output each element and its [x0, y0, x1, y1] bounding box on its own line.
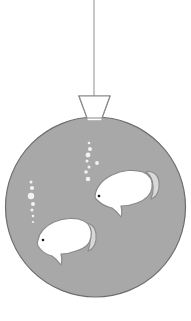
bubble — [28, 193, 34, 199]
bubble — [30, 186, 34, 190]
upper-fish-eye — [98, 195, 101, 198]
bubble — [86, 160, 89, 163]
lower-fish-eye — [42, 239, 45, 242]
bubble — [84, 170, 88, 174]
bubble — [32, 215, 35, 218]
bubble — [32, 221, 34, 223]
bubble — [30, 181, 33, 184]
bubble — [86, 153, 91, 158]
fishbowl-illustration — [0, 0, 191, 321]
bubble — [30, 208, 33, 211]
bowl-water-sphere — [6, 117, 186, 297]
bubble — [88, 142, 91, 145]
bubble — [88, 147, 92, 151]
bubble — [86, 177, 91, 182]
bubble — [31, 202, 35, 206]
bowl-neck-overlay — [79, 96, 110, 118]
bubble — [95, 161, 99, 165]
bubble — [88, 166, 91, 169]
illustration-canvas: Hanging spherical fishbowl ornament with… — [0, 0, 191, 321]
